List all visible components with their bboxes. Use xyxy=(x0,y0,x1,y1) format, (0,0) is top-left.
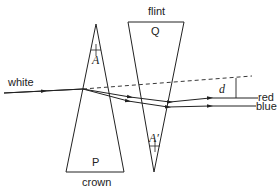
flint-prism xyxy=(128,22,184,172)
crown-label: crown xyxy=(82,176,111,188)
prism-Q-label: Q xyxy=(151,25,160,37)
white-label: white xyxy=(7,76,34,88)
blue-label: blue xyxy=(256,100,277,112)
apex-angle-A: A xyxy=(91,53,100,67)
deviation-label: d xyxy=(219,82,226,96)
prism-P-label: P xyxy=(92,156,99,168)
diagram-canvas: A P crown Q flint A′ white red blue d xyxy=(0,0,280,193)
flint-label: flint xyxy=(148,5,165,17)
apex-angle-A-prime: A′ xyxy=(148,131,159,145)
